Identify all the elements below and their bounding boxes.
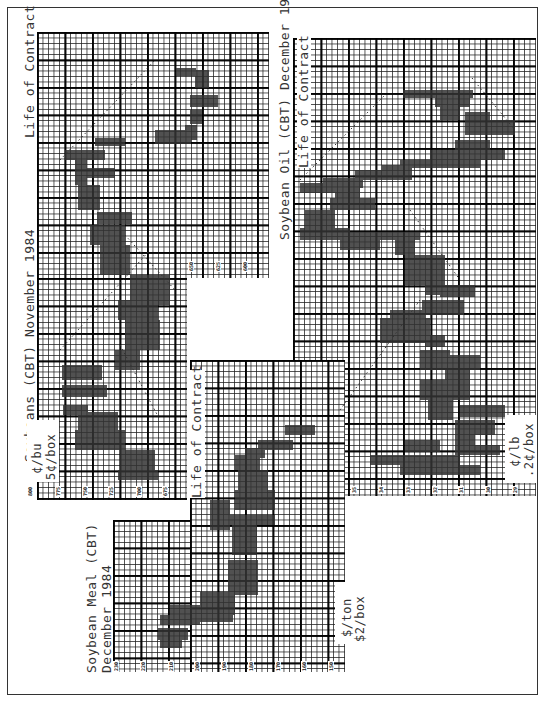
pf-clusters bbox=[62, 68, 515, 648]
pf-marks-layer bbox=[0, 0, 543, 703]
